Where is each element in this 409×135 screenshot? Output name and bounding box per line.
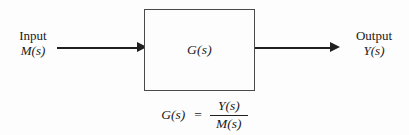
equation-numerator: Y(s)	[216, 99, 242, 113]
equation-fraction: Y(s) M(s)	[210, 99, 248, 131]
output-label-name: Output	[344, 29, 404, 44]
equation-denominator: M(s)	[214, 117, 244, 131]
input-port-label: Input M(s)	[8, 29, 58, 58]
transfer-function-equation: G(s) = Y(s) M(s)	[0, 99, 409, 131]
equation-equals-sign: =	[194, 107, 202, 123]
block-diagram-figure: Input M(s) G(s) Output Y(s) G(s) = Y(s) …	[0, 0, 409, 135]
transfer-function-block-label: G(s)	[145, 10, 254, 90]
input-arrow-line	[57, 47, 140, 49]
output-port-label: Output Y(s)	[344, 29, 404, 58]
input-label-name: Input	[8, 29, 58, 44]
equation-lhs: G(s)	[161, 107, 185, 123]
output-arrow-head-icon	[330, 42, 340, 52]
transfer-function-block: G(s)	[144, 9, 255, 91]
output-label-symbol: Y(s)	[344, 44, 404, 59]
output-arrow-line	[255, 47, 333, 49]
input-label-symbol: M(s)	[8, 44, 58, 59]
